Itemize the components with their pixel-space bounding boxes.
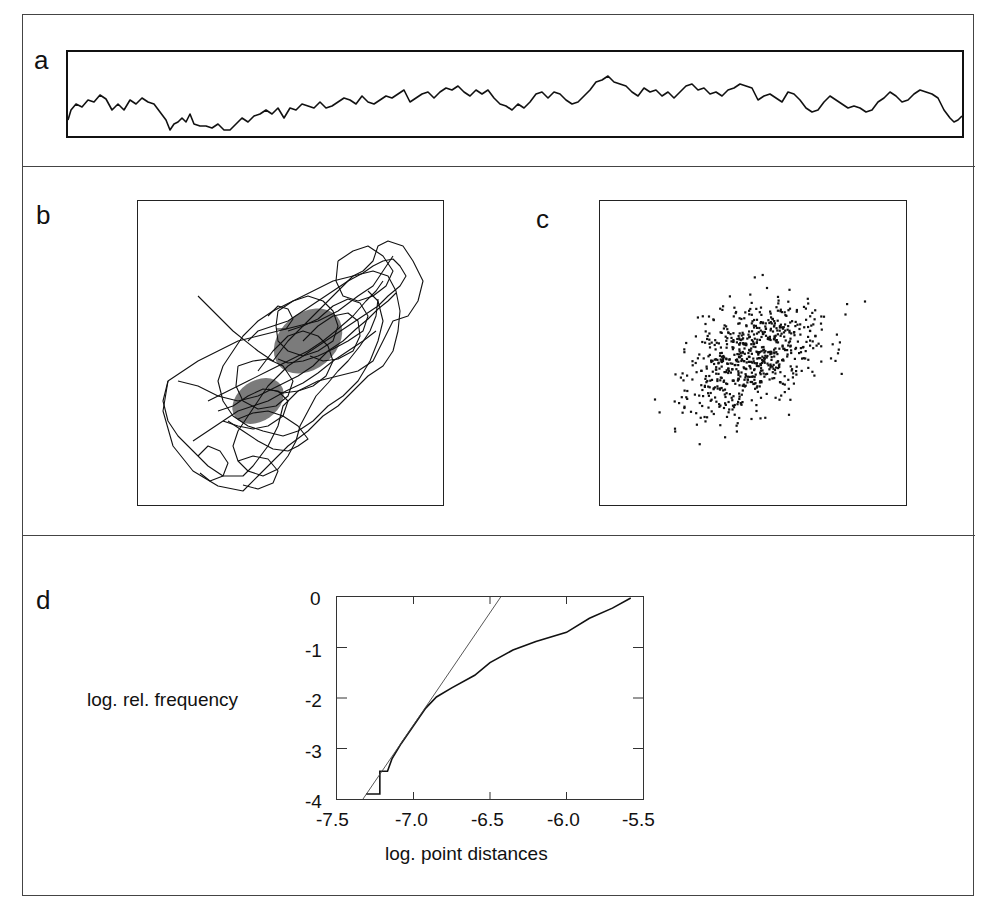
panel-a-trace xyxy=(68,52,962,136)
panel-d-plot xyxy=(336,596,644,800)
x-axis-title: log. point distances xyxy=(385,843,548,865)
panel-b-plot xyxy=(137,200,444,506)
panel-c-plot xyxy=(599,200,907,506)
y-tick-label: -1 xyxy=(305,641,322,660)
panel-d-lines xyxy=(337,597,643,799)
panel-c-scatter xyxy=(600,201,906,505)
divider-row-1 xyxy=(22,166,975,167)
y-axis-title: log. rel. frequency xyxy=(87,689,238,711)
y-tick-label: -3 xyxy=(305,742,322,761)
x-tick-label: -6.5 xyxy=(471,810,504,829)
panel-b-trajectory xyxy=(138,201,443,505)
y-tick-label: -2 xyxy=(305,691,322,710)
panel-label-c: c xyxy=(536,206,549,232)
x-tick-label: -5.5 xyxy=(622,810,655,829)
panel-a-plot xyxy=(66,50,964,138)
y-tick-label: 0 xyxy=(310,589,321,608)
panel-label-a: a xyxy=(34,47,48,73)
x-tick-label: -7.0 xyxy=(395,810,428,829)
x-tick-label: -6.0 xyxy=(547,810,580,829)
x-tick-label: -7.5 xyxy=(316,810,349,829)
divider-row-2 xyxy=(22,535,975,536)
panel-label-b: b xyxy=(36,202,50,228)
panel-label-d: d xyxy=(36,587,50,613)
fitted-line xyxy=(363,597,501,799)
empirical-curve xyxy=(366,598,631,794)
